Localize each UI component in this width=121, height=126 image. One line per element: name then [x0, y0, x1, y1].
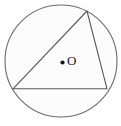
- geometry-canvas: [0, 0, 121, 126]
- center-point-label: O: [67, 54, 76, 67]
- geometry-figure: O: [0, 0, 121, 126]
- center-point-dot: [60, 60, 64, 64]
